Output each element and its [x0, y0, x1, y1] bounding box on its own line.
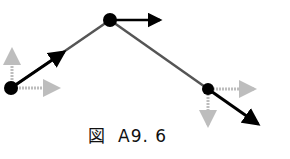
figure-number: A9. 6	[118, 126, 167, 146]
node-right	[202, 83, 214, 95]
figure-label: 図	[88, 122, 106, 147]
node-top	[103, 13, 117, 27]
link-top-right	[110, 20, 208, 89]
black-arrow-left-node	[11, 52, 64, 88]
black-arrow-right-node	[208, 89, 258, 124]
node-left	[4, 81, 18, 95]
figure-caption: 図A9. 6	[88, 122, 167, 147]
